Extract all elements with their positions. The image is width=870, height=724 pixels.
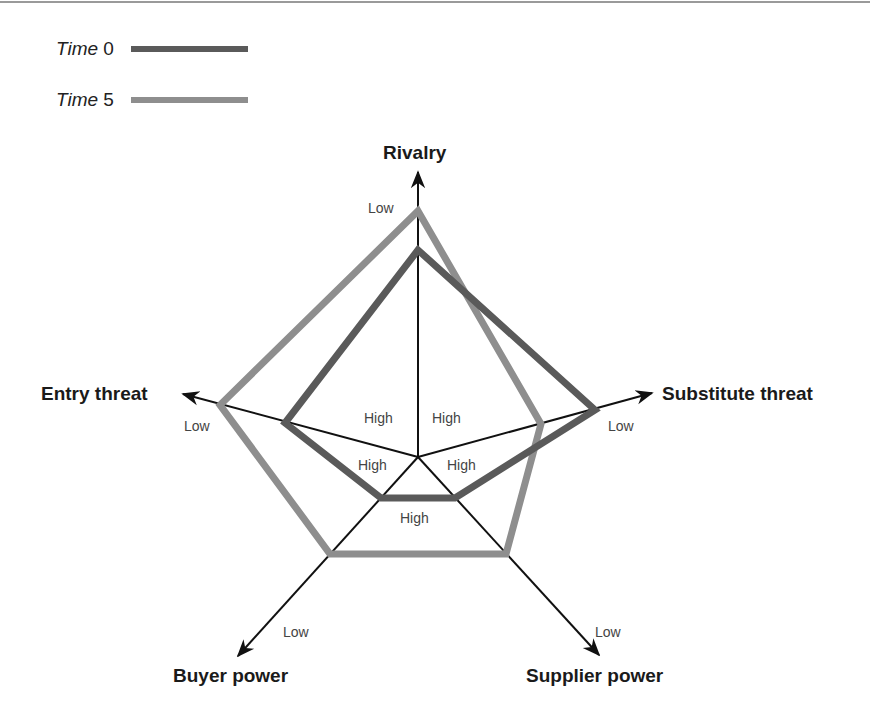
high-label-bottom: High	[400, 510, 429, 526]
series-time-5	[220, 211, 541, 554]
low-label-entry: Low	[184, 418, 210, 434]
high-label-buyer: High	[358, 457, 387, 473]
axis-title-buyer-power: Buyer power	[173, 665, 288, 687]
axis-title-supplier-power: Supplier power	[526, 665, 663, 687]
low-label-rivalry: Low	[368, 200, 394, 216]
series-time-0	[285, 250, 595, 498]
axis-title-rivalry: Rivalry	[383, 142, 446, 164]
low-label-supplier: Low	[595, 624, 621, 640]
high-label-entry-upper: High	[364, 410, 393, 426]
high-label-supplier: High	[447, 457, 476, 473]
axis-title-entry-threat: Entry threat	[41, 383, 148, 405]
high-label-rivalry-right: High	[432, 410, 461, 426]
low-label-buyer: Low	[283, 624, 309, 640]
axis-title-substitute-threat: Substitute threat	[662, 383, 813, 405]
low-label-substitute: Low	[608, 418, 634, 434]
radar-chart	[0, 0, 870, 724]
